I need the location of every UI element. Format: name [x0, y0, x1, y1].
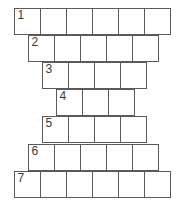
- grid-cell[interactable]: 5: [42, 116, 69, 143]
- grid-cell[interactable]: 4: [56, 89, 83, 116]
- grid-cell[interactable]: [118, 171, 145, 198]
- grid-cell[interactable]: [132, 35, 159, 62]
- grid-cell[interactable]: [144, 8, 171, 35]
- grid-row-2: 2: [28, 35, 159, 62]
- grid-cell[interactable]: [54, 144, 81, 171]
- grid-row-1: 1: [14, 8, 171, 35]
- grid-row-3: 3: [42, 62, 147, 89]
- crossword-puzzle: 1234567: [0, 0, 183, 206]
- grid-cell[interactable]: 3: [42, 62, 69, 89]
- clue-number: 6: [32, 145, 39, 158]
- grid-row-6: 6: [28, 144, 159, 171]
- grid-cell[interactable]: [92, 171, 119, 198]
- clue-number: 5: [46, 117, 53, 130]
- grid-cell[interactable]: [132, 144, 159, 171]
- grid-cell[interactable]: [94, 116, 121, 143]
- grid-row-5: 5: [42, 116, 147, 143]
- grid-cell[interactable]: [94, 62, 121, 89]
- grid-cell[interactable]: [144, 171, 171, 198]
- grid-cell[interactable]: [80, 35, 107, 62]
- grid-cell[interactable]: 2: [28, 35, 55, 62]
- clue-number: 7: [18, 172, 25, 185]
- grid-cell[interactable]: [82, 89, 109, 116]
- grid-cell[interactable]: [120, 116, 147, 143]
- clue-number: 4: [60, 90, 67, 103]
- grid-row-7: 7: [14, 171, 171, 198]
- grid-row-4: 4: [56, 89, 135, 116]
- clue-number: 3: [46, 63, 53, 76]
- grid-cell[interactable]: [106, 144, 133, 171]
- grid-cell[interactable]: [54, 35, 81, 62]
- grid-cell[interactable]: 7: [14, 171, 41, 198]
- clue-number: 2: [32, 36, 39, 49]
- grid-cell[interactable]: [68, 116, 95, 143]
- grid-cell[interactable]: [40, 171, 67, 198]
- grid-cell[interactable]: [68, 62, 95, 89]
- grid-cell[interactable]: [80, 144, 107, 171]
- grid-cell[interactable]: 6: [28, 144, 55, 171]
- crossword-grid: 1234567: [0, 0, 183, 206]
- grid-cell[interactable]: [40, 8, 67, 35]
- grid-cell[interactable]: [108, 89, 135, 116]
- grid-cell[interactable]: 1: [14, 8, 41, 35]
- grid-cell[interactable]: [66, 171, 93, 198]
- grid-cell[interactable]: [120, 62, 147, 89]
- grid-cell[interactable]: [66, 8, 93, 35]
- clue-number: 1: [18, 9, 25, 22]
- grid-cell[interactable]: [106, 35, 133, 62]
- grid-cell[interactable]: [118, 8, 145, 35]
- grid-cell[interactable]: [92, 8, 119, 35]
